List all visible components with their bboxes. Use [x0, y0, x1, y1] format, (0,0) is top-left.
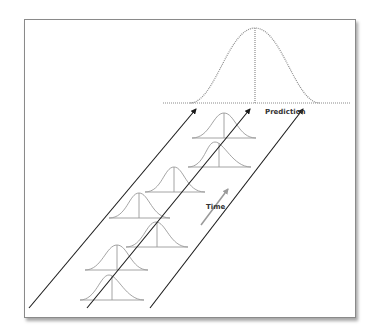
distribution-7 [192, 113, 256, 138]
historical-distributions [80, 113, 256, 300]
lane-arrow-1 [29, 109, 196, 308]
distribution-2 [85, 245, 148, 270]
distribution-4 [109, 193, 170, 218]
lane-arrow-3 [150, 109, 303, 308]
prediction-label: Prediction [265, 108, 305, 116]
prediction-over-time-diagram: Prediction Time [0, 0, 377, 334]
distribution-3 [126, 222, 188, 247]
distribution-1 [80, 275, 144, 300]
time-label: Time [206, 203, 225, 211]
time-lanes [29, 109, 303, 308]
prediction-distribution [163, 28, 350, 103]
prediction-curve [190, 28, 320, 103]
lane-arrow-2 [87, 109, 250, 308]
distribution-5 [145, 167, 205, 192]
